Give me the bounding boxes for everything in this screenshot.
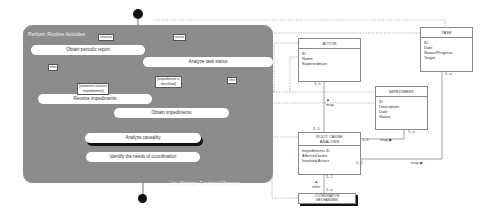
entity-actor-attributes: ID Name Superordinate [299,49,360,68]
activity-identify-coordination-needs[interactable]: Identify the needs of coordination [86,152,200,162]
guard-active: active [173,34,186,41]
entity-task-name: TASK [421,28,472,38]
entity-impediment-name: IMPEDIMENT [376,87,427,97]
mult-task-rca-left: 1..1 [356,160,363,165]
mult-actor-rca-top: 1..n [314,81,321,86]
arrow-right-icon: ▶ [420,160,423,165]
swimlane-title: Perform Routine Activities [28,31,88,37]
entity-task[interactable]: TASK ID Date Status/Progress Target [420,27,473,72]
mult-task-rca-top: 1..n [445,71,452,76]
entity-root-cause-name: ROOT CAUSE ANALYSIS [299,133,360,146]
entity-root-cause-analysis[interactable]: ROOT CAUSE ANALYSIS Impediments ID Affec… [298,132,361,175]
mult-rca-coord-bottom: 1..n [326,187,333,192]
entity-actor[interactable]: ACTOR ID Name Superordinate [298,38,361,82]
activity-receive-impediments[interactable]: Receive impediments [38,94,152,104]
entity-actor-name: ACTOR [299,39,360,49]
entity-task-attributes: ID Date Status/Progress Target [421,38,472,62]
activity-obtain-periodic-report[interactable]: Obtain periodic report [31,45,145,55]
mult-rca-coord-top: 1..1 [326,174,333,179]
relation-task-rca-label: map ▶ [411,160,423,165]
relation-actor-rca-label: ▲map [326,97,334,107]
entity-impediment-attributes: ID Description Date Status [376,97,427,121]
guard-someone-initiates: [someone initiates impediments] [77,83,109,95]
entity-impediment[interactable]: IMPEDIMENT ID Description Date Status [375,86,428,130]
activity-analyze-task-status[interactable]: Analyze task status [143,57,273,67]
final-node [138,194,147,203]
guard-else-left: else [48,64,58,71]
mult-impediment-rca-right: 1..n [408,129,415,134]
entity-coordination-mechanisms[interactable]: COORDINATION MECHANISMS [298,193,356,204]
entity-root-cause-attributes: Impediments ID Affected tasks Involved A… [299,146,360,165]
arrow-right-icon: ▶ [389,137,392,142]
relation-rca-coord-label: ▲refer [312,179,320,189]
mult-impediment-rca-left: 1..1 [362,137,369,142]
initial-node [133,9,143,19]
swimlane-role-label: Line Manager, Functional Manager [170,181,240,186]
activity-analyze-causality[interactable]: Analyze causality [85,133,201,143]
guard-else-right: else [227,77,237,84]
relation-impediment-rca-label: map ▶ [380,137,392,142]
activity-obtain-impediments[interactable]: Obtain impediments [114,108,229,118]
mult-actor-rca-bottom: 1..1 [313,126,320,131]
guard-impediment-identified: [impediment is identified] [155,76,182,88]
guard-reactive: reactive [98,34,114,41]
